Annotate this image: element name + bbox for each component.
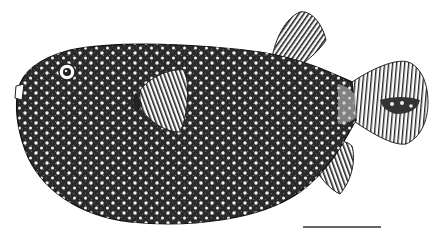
mouth bbox=[15, 84, 24, 100]
illustration-canvas bbox=[0, 0, 440, 242]
eye bbox=[59, 64, 75, 80]
caudal-fin bbox=[352, 61, 428, 144]
pufferfish-illustration bbox=[0, 0, 440, 242]
